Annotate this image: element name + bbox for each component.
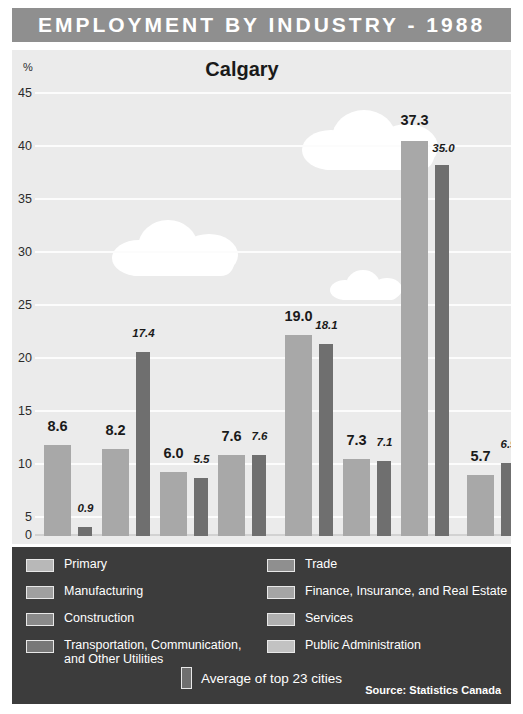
legend-swatch-transportation-icon: [26, 640, 54, 653]
y-tick-30: 30: [12, 245, 32, 259]
source-credit: Source: Statistics Canada: [365, 684, 501, 696]
legend-item-public-admin: Public Administration: [267, 638, 421, 653]
legend-panel: Primary Manufacturing Construction Trans…: [12, 547, 511, 704]
bar-construction-city: [160, 472, 187, 536]
legend-swatch-services-icon: [267, 613, 295, 626]
bar-primary-avg: [78, 527, 92, 536]
bar-trade-avg: [319, 344, 333, 536]
bar-label-services-city: 37.3: [390, 112, 439, 128]
bar-label-public-admin-city: 5.7: [458, 448, 503, 464]
legend-item-primary: Primary: [26, 557, 107, 572]
legend-item-transportation: Transportation, Communication, and Other…: [26, 638, 241, 666]
y-tick-10: 10: [12, 457, 32, 471]
legend-item-finance: Finance, Insurance, and Real Estate: [267, 584, 507, 599]
legend-label-construction: Construction: [64, 611, 134, 625]
legend-swatch-trade-icon: [267, 559, 295, 572]
bar-label-manufacturing-city: 8.2: [93, 422, 138, 438]
bar-construction-avg: [194, 478, 208, 536]
bar-label-services-avg: 35.0: [427, 142, 460, 154]
bar-label-transportation-avg: 7.6: [245, 430, 274, 442]
legend-item-construction: Construction: [26, 611, 134, 626]
legend-label-services: Services: [305, 611, 353, 625]
legend-item-manufacturing: Manufacturing: [26, 584, 143, 599]
legend-swatch-finance-icon: [267, 586, 295, 599]
bar-primary-city: [44, 445, 71, 536]
legend-swatch-primary-icon: [26, 559, 54, 572]
banner-title: EMPLOYMENT BY INDUSTRY - 1988: [12, 8, 511, 42]
legend-item-trade: Trade: [267, 557, 337, 572]
y-tick-25: 25: [12, 298, 32, 312]
bar-public-admin-city: [467, 475, 494, 536]
bar-label-public-admin-avg: 6.9: [494, 438, 511, 450]
bar-services-city: [401, 141, 428, 536]
legend-label-trade: Trade: [305, 557, 337, 571]
legend-swatch-construction-icon: [26, 613, 54, 626]
cloud-decoration-small: [330, 270, 406, 300]
bar-finance-avg: [377, 461, 391, 536]
legend-swatch-manufacturing-icon: [26, 586, 54, 599]
y-tick-35: 35: [12, 192, 32, 206]
bar-finance-city: [343, 459, 370, 536]
legend-label-public-admin: Public Administration: [305, 638, 421, 652]
legend-item-services: Services: [267, 611, 353, 626]
bar-label-manufacturing-avg: 17.4: [128, 327, 159, 339]
chart-page: EMPLOYMENT BY INDUSTRY - 1988 % Calgary …: [0, 0, 523, 714]
y-tick-40: 40: [12, 139, 32, 153]
y-tick-20: 20: [12, 351, 32, 365]
legend-label-average: Average of top 23 cities: [201, 671, 342, 686]
bar-transportation-avg: [252, 455, 266, 536]
y-tick-15: 15: [12, 404, 32, 418]
bar-manufacturing-avg: [136, 352, 150, 536]
plot-area: % Calgary 45 40 35 30 25: [12, 50, 511, 544]
cloud-decoration-medium: [112, 220, 252, 274]
legend-label-manufacturing: Manufacturing: [64, 584, 143, 598]
legend-label-primary: Primary: [64, 557, 107, 571]
y-tick-0: 0: [12, 528, 32, 542]
bar-transportation-city: [218, 455, 245, 536]
bar-manufacturing-city: [102, 449, 129, 536]
y-tick-5: 5: [12, 510, 32, 524]
legend-label-finance: Finance, Insurance, and Real Estate: [305, 584, 507, 598]
legend-label-transportation: Transportation, Communication, and Other…: [64, 638, 241, 666]
bar-label-trade-avg: 18.1: [311, 319, 342, 331]
title-banner: EMPLOYMENT BY INDUSTRY - 1988: [12, 8, 511, 42]
bar-public-admin-avg: [501, 463, 511, 536]
y-tick-45: 45: [12, 86, 32, 100]
bar-label-finance-avg: 7.1: [370, 436, 399, 448]
legend-swatch-public-admin-icon: [267, 640, 295, 653]
bar-services-avg: [435, 165, 449, 536]
legend-swatch-average-icon: [181, 667, 192, 689]
chart-title: Calgary: [12, 58, 472, 81]
bar-label-construction-avg: 5.5: [187, 453, 216, 465]
gridline-45: [35, 92, 511, 94]
bar-trade-city: [285, 335, 312, 536]
bar-label-primary-city: 8.6: [35, 418, 80, 434]
bar-label-primary-avg: 0.9: [71, 502, 100, 514]
